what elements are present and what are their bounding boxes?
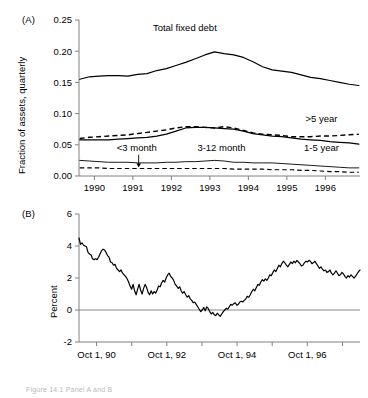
panel-a-y-tick-label: 0.20: [54, 46, 73, 57]
panel-b-y-tick-label: 4: [67, 240, 72, 251]
panel-a-annotation-arrowhead: [136, 164, 141, 167]
panel-a-series-3-month: [80, 168, 359, 172]
panel-b-y-tick-label: 0: [67, 304, 72, 315]
panel-a-x-tick-label: 1994: [238, 182, 259, 193]
panel-a-x-tick-label: 1996: [315, 182, 336, 193]
panel-b-axis-spine: [79, 214, 360, 342]
panel-b-x-tick-label: Oct 1, 94: [218, 349, 257, 360]
figure-container: (A) Fraction of assets, quarterly 0.000.…: [0, 0, 368, 398]
panel-a-label-3-12-month: 3-12 month: [197, 142, 245, 153]
panel-a-series-3-12-month: [80, 160, 359, 167]
panel-a-plot: 0.000.050.100.150.200.251990199119921993…: [0, 0, 368, 200]
panel-b-plot: -20246Oct 1, 90Oct 1, 92Oct 1, 94Oct 1, …: [0, 200, 368, 370]
panel-a-x-tick-label: 1995: [276, 182, 297, 193]
panel-a-label-3-month: <3 month: [117, 142, 157, 153]
panel-a-y-tick-label: 0.05: [54, 139, 73, 150]
panel-b-x-tick-label: Oct 1, 92: [148, 349, 187, 360]
panel-a-y-tick-label: 0.00: [54, 170, 73, 181]
panel-b-y-tick-label: 2: [67, 272, 72, 283]
panel-b-series-percent: [79, 238, 360, 316]
figure-caption: Figure 14.1 Panel A and B: [26, 386, 112, 393]
panel-b: (B) Percent -20246Oct 1, 90Oct 1, 92Oct …: [0, 200, 368, 370]
panel-a-series-total-fixed-debt: [80, 52, 359, 86]
panel-a-label-5-year: >5 year: [306, 113, 338, 124]
panel-a-x-tick-label: 1993: [199, 182, 220, 193]
panel-b-y-tick-label: 6: [67, 208, 72, 219]
panel-a: (A) Fraction of assets, quarterly 0.000.…: [0, 0, 368, 200]
panel-a-label-total-fixed-debt: Total fixed debt: [153, 22, 217, 33]
panel-b-x-tick-label: Oct 1, 96: [288, 349, 327, 360]
panel-a-y-tick-label: 0.10: [54, 108, 73, 119]
panel-a-label-1-5-year: 1-5 year: [304, 142, 339, 153]
panel-a-y-tick-label: 0.15: [54, 77, 73, 88]
panel-a-y-tick-label: 0.25: [54, 14, 73, 25]
panel-a-x-tick-label: 1992: [161, 182, 182, 193]
panel-a-x-tick-label: 1990: [84, 182, 105, 193]
panel-a-x-tick-label: 1991: [122, 182, 143, 193]
panel-b-x-tick-label: Oct 1, 90: [77, 349, 116, 360]
panel-b-y-tick-label: -2: [64, 336, 72, 347]
